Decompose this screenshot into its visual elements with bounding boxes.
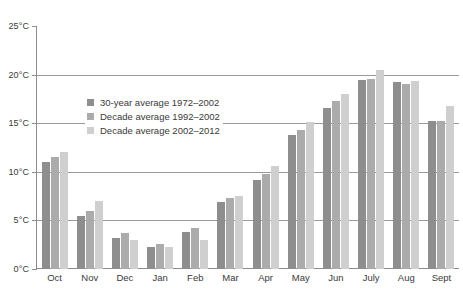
bar	[156, 244, 164, 269]
bar	[446, 106, 454, 269]
x-axis-tick-label: Oct	[37, 272, 72, 283]
plot-area	[36, 26, 459, 269]
bar	[411, 81, 419, 269]
bar	[121, 233, 129, 269]
x-axis-tick-label: May	[283, 272, 318, 283]
y-axis-tick-label: 10°C	[0, 167, 29, 177]
x-axis-tick-label: Mar	[213, 272, 248, 283]
y-axis-tick	[32, 269, 37, 270]
bar	[376, 70, 384, 269]
bar	[112, 238, 120, 269]
bar	[341, 94, 349, 269]
bar-group	[354, 26, 389, 269]
bar	[95, 201, 103, 269]
temperature-bar-chart: 0°C5°C10°C15°C20°C25°C OctNovDecJanFebMa…	[0, 0, 463, 294]
legend-item: Decade average 1992–2002	[87, 109, 220, 123]
bar	[226, 198, 234, 269]
bar	[130, 240, 138, 269]
x-axis-tick-label: July	[354, 272, 389, 283]
bar	[297, 130, 305, 269]
bar	[402, 84, 410, 269]
bar	[437, 121, 445, 269]
bar-group	[283, 26, 318, 269]
legend-item: Decade average 2002–2012	[87, 123, 220, 137]
y-axis-tick-label: 0°C	[0, 264, 29, 274]
bar	[60, 152, 68, 269]
bar-groups	[37, 26, 459, 269]
x-axis-tick-label: Aug	[389, 272, 424, 283]
y-axis-tick-label: 5°C	[0, 215, 29, 225]
bar	[235, 196, 243, 269]
bar	[358, 80, 366, 269]
legend-swatch-icon	[87, 99, 94, 106]
y-axis-tick-label: 25°C	[0, 21, 29, 31]
bar	[77, 216, 85, 269]
x-axis-tick-label: Jun	[318, 272, 353, 283]
x-axis-tick-label: Nov	[72, 272, 107, 283]
bar	[271, 166, 279, 269]
bar	[393, 82, 401, 269]
x-axis-tick-label: Dec	[107, 272, 142, 283]
legend-item-label: 30-year average 1972–2002	[100, 97, 219, 108]
bar	[217, 202, 225, 269]
bar-group	[248, 26, 283, 269]
x-axis-tick-label: Sept	[424, 272, 459, 283]
bar-group	[72, 26, 107, 269]
bar	[51, 157, 59, 269]
bar	[306, 122, 314, 269]
x-axis-tick-label: Jan	[143, 272, 178, 283]
y-axis-tick-label: 15°C	[0, 118, 29, 128]
legend-swatch-icon	[87, 113, 94, 120]
bar-group	[424, 26, 459, 269]
y-axis-tick-label: 20°C	[0, 70, 29, 80]
bar-group	[389, 26, 424, 269]
legend-item-label: Decade average 2002–2012	[100, 125, 220, 136]
bar	[367, 79, 375, 269]
legend-item-label: Decade average 1992–2002	[100, 111, 220, 122]
bar	[262, 174, 270, 269]
bar-group	[143, 26, 178, 269]
bar	[165, 247, 173, 269]
bar	[200, 240, 208, 269]
bar	[288, 135, 296, 269]
bar	[86, 211, 94, 269]
legend-item: 30-year average 1972–2002	[87, 95, 220, 109]
bar	[42, 162, 50, 269]
x-axis-tick-label: Feb	[178, 272, 213, 283]
legend-swatch-icon	[87, 127, 94, 134]
bar	[323, 108, 331, 269]
bar	[147, 247, 155, 269]
bar	[253, 180, 261, 269]
bar-group	[178, 26, 213, 269]
bar	[332, 101, 340, 269]
chart-legend: 30-year average 1972–2002 Decade average…	[85, 93, 223, 139]
bar-group	[107, 26, 142, 269]
bar-group	[213, 26, 248, 269]
x-axis-tick-label: Apr	[248, 272, 283, 283]
bar	[428, 121, 436, 269]
bar-group	[37, 26, 72, 269]
bar	[182, 232, 190, 269]
bar	[191, 228, 199, 269]
x-axis-labels: OctNovDecJanFebMarAprMayJunJulyAugSept	[37, 272, 459, 283]
bar-group	[318, 26, 353, 269]
cropped-title-strip	[0, 0, 463, 7]
